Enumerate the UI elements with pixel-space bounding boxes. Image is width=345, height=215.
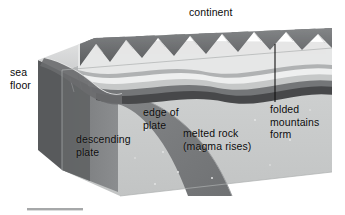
block-left-face xyxy=(38,60,62,170)
block-top-surface xyxy=(40,4,340,104)
diagram-illustration xyxy=(0,0,345,215)
scale-bar xyxy=(27,208,83,210)
geology-block-diagram: continent sea floor descending plate edg… xyxy=(0,0,345,215)
